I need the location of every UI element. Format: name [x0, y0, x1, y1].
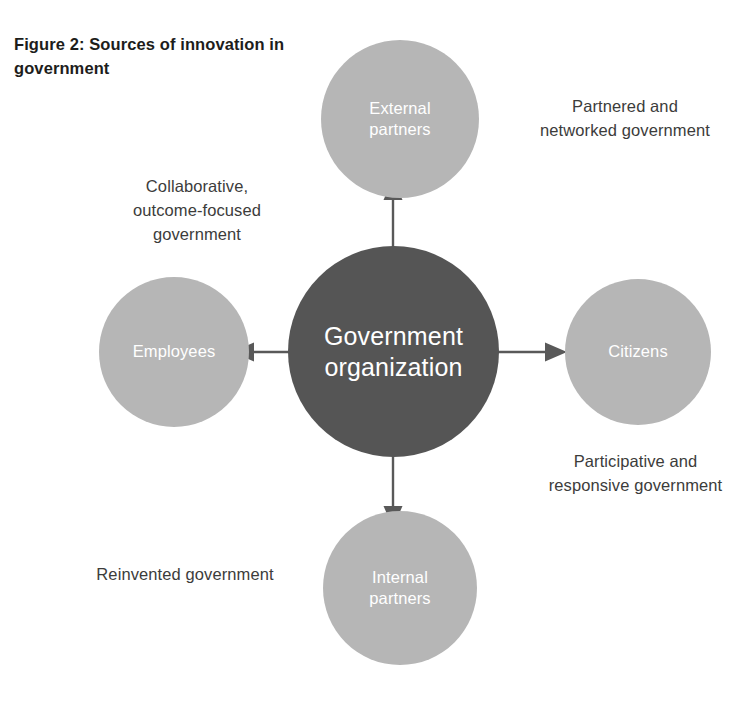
node-external-partners[interactable]: External partners: [321, 40, 479, 198]
arrow-to-citizens: [495, 343, 567, 362]
annotation-participative-responsive-government: Participative and responsive government: [516, 450, 755, 498]
figure-title: Figure 2: Sources of innovation in gover…: [14, 33, 304, 81]
node-internal-partners-label: Internal partners: [369, 567, 430, 609]
node-government-organization[interactable]: Government organization: [288, 246, 499, 457]
annotation-reinvented-government: Reinvented government: [40, 563, 330, 587]
node-citizens-label: Citizens: [608, 341, 668, 362]
node-citizens[interactable]: Citizens: [565, 279, 711, 425]
node-external-partners-label: External partners: [369, 98, 430, 140]
figure-container: Figure 2: Sources of innovation in gover…: [0, 0, 755, 703]
node-employees-label: Employees: [133, 341, 216, 362]
node-government-organization-label: Government organization: [324, 321, 463, 382]
annotation-partnered-networked-government: Partnered and networked government: [500, 95, 750, 143]
annotation-collaborative-outcome-focused-government: Collaborative, outcome-focused governmen…: [82, 175, 312, 247]
node-internal-partners[interactable]: Internal partners: [323, 511, 477, 665]
node-employees[interactable]: Employees: [99, 277, 249, 427]
